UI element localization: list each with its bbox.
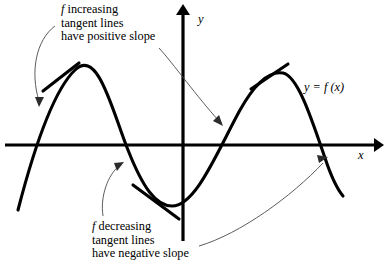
pointer-arrow-increasing-right-shaft [159,48,219,121]
function-curve [18,65,343,210]
pointer-arrow-increasing-left [35,26,55,107]
annotation-increasing: f increasing tangent lines have positive… [61,3,155,44]
function-symbol-f: f [61,2,64,16]
tangent-line-figure: f increasing tangent lines have positive… [0,0,387,270]
annotation-decreasing-line2: tangent lines [92,234,189,248]
annotation-increasing-line1: f increasing [61,3,155,17]
annotation-increasing-line1-text: increasing [68,2,119,16]
pointer-arrow-increasing-right [159,48,223,126]
y-axis-label: y [198,12,204,27]
annotation-increasing-line3: have positive slope [61,30,155,44]
x-axis-label: x [358,148,364,163]
annotation-increasing-line2: tangent lines [61,17,155,31]
figure-canvas [0,0,387,270]
annotation-decreasing-line1-text: decreasing [99,219,152,233]
annotation-decreasing: f decreasing tangent lines have negative… [92,220,189,261]
function-symbol-f: f [92,219,95,233]
pointer-arrow-decreasing-left-shaft [102,166,119,216]
annotation-decreasing-line1: f decreasing [92,220,189,234]
y-axis-arrowhead [176,4,190,15]
x-axis [5,138,384,152]
annotation-decreasing-line3: have negative slope [92,247,189,261]
pointer-arrow-increasing-left-head [35,97,44,107]
tangent-line-negative-middle [133,185,179,219]
pointer-arrow-increasing-right-head [213,115,223,126]
tangent-line-positive-right [251,64,288,89]
curve-equation-label: y = f (x) [304,80,344,95]
pointer-arrow-decreasing-left [102,162,124,216]
pointer-arrow-decreasing-right-shaft [199,163,323,246]
x-axis-arrowhead [374,138,384,152]
pointer-arrow-decreasing-right [199,155,328,246]
